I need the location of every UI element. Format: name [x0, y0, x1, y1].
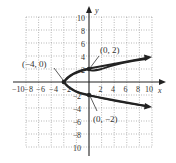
bottom-leader [90, 96, 97, 111]
xtick: 2 [99, 85, 103, 94]
axes [13, 6, 166, 156]
svg-text:−: − [73, 131, 78, 140]
svg-text:−: − [36, 85, 41, 94]
ytick: 4 [81, 53, 85, 62]
xtick: 2 [67, 85, 71, 94]
x-axis-label: x [157, 86, 162, 95]
xtick: 4 [111, 85, 115, 94]
ytick: 6 [81, 40, 85, 49]
x-axis-arrow-icon [159, 79, 166, 85]
ytick: 2 [77, 92, 81, 101]
vertex-leader [54, 68, 63, 80]
y-intercept-top-label: (0, 2) [100, 45, 120, 55]
curve-arrow-down-icon [144, 103, 152, 110]
parabola-graph: −10 8 6 4 2 2 4 6 8 10 x y 10 8 6 4 2 2 … [0, 0, 176, 163]
ytick: 10 [77, 14, 85, 23]
y-axis-label: y [94, 6, 99, 15]
svg-text:−: − [73, 118, 78, 127]
ytick: 10 [73, 144, 81, 153]
ytick: 8 [77, 131, 81, 140]
xtick: −10 [12, 85, 25, 94]
xtick: 8 [136, 85, 140, 94]
ytick: 6 [77, 118, 81, 127]
y-intercept-bottom-label: (0, −2) [93, 114, 118, 124]
vertex-label: (−4, 0) [22, 59, 47, 69]
xtick: 6 [124, 85, 128, 94]
ytick: 4 [77, 105, 81, 114]
ytick: 2 [81, 66, 85, 75]
svg-text:−: − [49, 85, 54, 94]
curve-arrow-up-icon [144, 55, 152, 62]
svg-text:−: − [73, 105, 78, 114]
xtick: 8 [29, 85, 33, 94]
y-axis-arrow-icon [86, 6, 92, 13]
vertex-point [62, 80, 66, 84]
xtick: 10 [145, 85, 153, 94]
svg-text:−: − [24, 85, 29, 94]
xtick: 4 [54, 85, 58, 94]
ytick: 8 [81, 27, 85, 36]
xtick: 6 [41, 85, 45, 94]
svg-text:−: − [62, 85, 67, 94]
svg-text:−: − [73, 92, 78, 101]
